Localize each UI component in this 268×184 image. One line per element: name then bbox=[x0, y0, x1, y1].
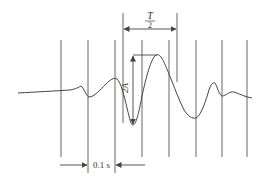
time-grid-lines bbox=[61, 40, 247, 173]
half-period-label-denominator: 2 bbox=[148, 21, 152, 30]
amplitude-label: 2A bbox=[120, 83, 130, 94]
interval-label: 0.1 s bbox=[93, 160, 111, 170]
half-period-label-numerator: T bbox=[147, 10, 154, 21]
waveform-diagram: T 2 2A 0.1 s bbox=[0, 0, 268, 184]
diagram-canvas: T 2 2A 0.1 s bbox=[0, 0, 268, 184]
waveform-trace bbox=[18, 55, 252, 125]
